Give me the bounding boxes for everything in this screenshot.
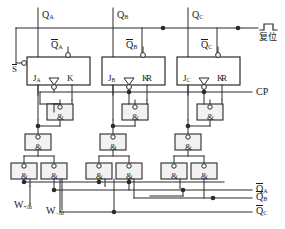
bubble-lower-a2-in: [52, 164, 56, 168]
label-j-c: JC: [183, 74, 190, 84]
bubble-qbar-a: [66, 53, 71, 58]
gate-label-lower-b2: &: [126, 172, 133, 181]
bubble-lower-c1-in: [172, 164, 176, 168]
bubble-upper-a-out: [36, 135, 40, 139]
reset-waveform-icon: [260, 24, 277, 30]
bubble-lower-c2-in: [202, 164, 206, 168]
bubble-sbar: [22, 61, 27, 66]
gate-label-clock-a: &: [57, 113, 64, 122]
label-r-b: R: [146, 74, 152, 83]
bubble-qbar-b: [141, 53, 146, 58]
label-j-b: JB: [108, 74, 115, 84]
label-s-bar: S: [12, 65, 17, 74]
label-qbar-c: QC: [201, 40, 212, 50]
gate-label-lower-a2: &: [51, 172, 58, 181]
bubble-clkgate-b-out: [133, 105, 137, 109]
gate-label-lower-c1: &: [171, 172, 178, 181]
gate-label-upper-c: &: [185, 143, 192, 152]
label-w-plus: W+Δt: [14, 200, 32, 211]
gate-label-upper-a: &: [35, 143, 42, 152]
label-qbar-b-out: QB: [256, 192, 267, 202]
label-q-b: QB: [117, 10, 128, 20]
gate-label-clock-b: &: [132, 113, 139, 122]
label-w-minus: W−Δt: [46, 206, 64, 217]
gate-label-upper-b: &: [110, 143, 117, 152]
bubble-upper-b-out: [111, 135, 115, 139]
label-qbar-b: QB: [126, 40, 137, 50]
label-q-a: QA: [42, 10, 54, 20]
bubble-upper-c-out: [186, 135, 190, 139]
gate-label-lower-a1: &: [21, 172, 28, 181]
gate-label-lower-c2: &: [201, 172, 208, 181]
bubble-lower-b1-in: [97, 164, 101, 168]
label-q-c: QC: [192, 10, 203, 20]
label-r-c: R: [221, 74, 227, 83]
schematic-diagram: QA QB QC 复位 S QA QB QC JA JB JC K K K R …: [0, 0, 285, 229]
bubble-qbar-c: [216, 53, 221, 58]
bubble-clkgate-c-out: [208, 105, 212, 109]
label-reset: 复位: [259, 33, 277, 42]
bubble-lower-a1-in: [22, 164, 26, 168]
bubble-clkgate-a-out: [58, 105, 62, 109]
bubble-lower-b2-in: [127, 164, 131, 168]
gate-label-lower-b1: &: [96, 172, 103, 181]
label-qbar-c-out: QC: [256, 206, 267, 216]
label-cp: CP: [256, 87, 268, 97]
label-k-a: K: [67, 74, 74, 83]
circuit-svg: [0, 0, 285, 229]
label-j-a: JA: [33, 74, 41, 84]
gate-label-clock-c: &: [207, 113, 214, 122]
label-qbar-a: QA: [51, 40, 63, 50]
